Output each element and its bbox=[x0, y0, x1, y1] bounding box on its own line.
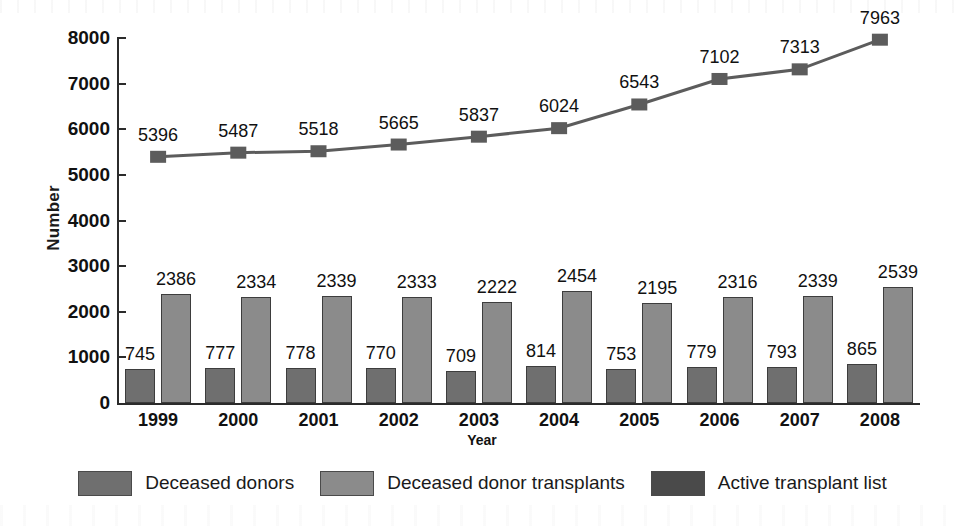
y-axis-tick-label: 4000 bbox=[40, 210, 110, 232]
x-axis-tick-label: 2000 bbox=[218, 410, 258, 431]
line-value-label: 7313 bbox=[780, 37, 820, 58]
bar-value-label: 2339 bbox=[316, 271, 356, 292]
x-axis-tick-label: 2008 bbox=[860, 410, 900, 431]
line-value-label: 5665 bbox=[379, 113, 419, 134]
legend-item[interactable]: Active transplant list bbox=[651, 471, 887, 496]
bar-deceased-donors bbox=[366, 368, 396, 403]
line-value-label: 5518 bbox=[298, 119, 338, 140]
bar-value-label: 779 bbox=[686, 342, 716, 363]
y-axis-tick-label: 3000 bbox=[40, 255, 110, 277]
bar-value-label: 793 bbox=[767, 342, 797, 363]
bar-value-label: 2539 bbox=[878, 262, 918, 283]
bar-deceased-donors bbox=[767, 367, 797, 403]
legend-item[interactable]: Deceased donors bbox=[78, 471, 294, 496]
bar-value-label: 778 bbox=[285, 343, 315, 364]
legend-swatch-icon bbox=[320, 471, 374, 496]
x-axis-tick-label: 2002 bbox=[379, 410, 419, 431]
bar-value-label: 2195 bbox=[637, 278, 677, 299]
legend-label: Deceased donors bbox=[145, 472, 294, 494]
bar-deceased-donor-transplants bbox=[642, 303, 672, 403]
y-axis-tick-label: 8000 bbox=[40, 27, 110, 49]
y-axis-tick-label: 2000 bbox=[40, 301, 110, 323]
bar-value-label: 2333 bbox=[397, 272, 437, 293]
bar-value-label: 2316 bbox=[717, 272, 757, 293]
bar-deceased-donors bbox=[205, 368, 235, 403]
bar-value-label: 2454 bbox=[557, 266, 597, 287]
x-axis-tick-label: 2006 bbox=[699, 410, 739, 431]
x-axis-title: Year bbox=[467, 432, 497, 448]
legend-label: Active transplant list bbox=[718, 472, 887, 494]
x-axis-tick-label: 2001 bbox=[298, 410, 338, 431]
legend-swatch-icon bbox=[651, 471, 705, 496]
bar-value-label: 2339 bbox=[798, 271, 838, 292]
x-axis-tick-label: 1999 bbox=[138, 410, 178, 431]
bar-value-label: 753 bbox=[606, 344, 636, 365]
line-value-label: 5396 bbox=[138, 125, 178, 146]
bar-deceased-donor-transplants bbox=[402, 297, 432, 403]
scan-artifact-top bbox=[0, 0, 965, 13]
y-axis-tick-label: 5000 bbox=[40, 164, 110, 186]
bar-deceased-donor-transplants bbox=[322, 296, 352, 403]
line-value-label: 7102 bbox=[699, 47, 739, 68]
line-value-label: 6024 bbox=[539, 96, 579, 117]
line-value-label: 6543 bbox=[619, 72, 659, 93]
bar-deceased-donors bbox=[125, 369, 155, 403]
x-axis-tick-label: 2003 bbox=[459, 410, 499, 431]
chart-legend: Deceased donorsDeceased donor transplant… bbox=[0, 462, 965, 504]
bar-value-label: 2222 bbox=[477, 277, 517, 298]
bar-value-label: 745 bbox=[125, 344, 155, 365]
bar-value-label: 2334 bbox=[236, 272, 276, 293]
scan-artifact-bottom bbox=[0, 505, 965, 526]
line-value-label: 7963 bbox=[860, 8, 900, 29]
bar-deceased-donors bbox=[526, 366, 556, 403]
bar-value-label: 814 bbox=[526, 341, 556, 362]
bar-deceased-donor-transplants bbox=[723, 297, 753, 403]
line-value-label: 5837 bbox=[459, 105, 499, 126]
bar-deceased-donor-transplants bbox=[241, 297, 271, 403]
bar-deceased-donors bbox=[606, 369, 636, 403]
plot-area bbox=[118, 38, 920, 403]
bar-deceased-donor-transplants bbox=[803, 296, 833, 403]
bar-deceased-donors bbox=[286, 368, 316, 403]
y-axis-tick-label: 1000 bbox=[40, 346, 110, 368]
x-axis-tick-label: 2004 bbox=[539, 410, 579, 431]
bar-value-label: 777 bbox=[205, 343, 235, 364]
line-value-label: 5487 bbox=[218, 121, 258, 142]
bar-deceased-donors bbox=[687, 367, 717, 403]
bar-value-label: 770 bbox=[366, 343, 396, 364]
bar-value-label: 2386 bbox=[156, 269, 196, 290]
legend-swatch-icon bbox=[78, 471, 132, 496]
y-axis-tick-label: 7000 bbox=[40, 73, 110, 95]
x-axis-line bbox=[118, 403, 920, 405]
bar-deceased-donor-transplants bbox=[161, 294, 191, 403]
legend-label: Deceased donor transplants bbox=[387, 472, 625, 494]
bar-value-label: 709 bbox=[446, 346, 476, 367]
x-axis-tick-label: 2007 bbox=[780, 410, 820, 431]
x-axis-tick-label: 2005 bbox=[619, 410, 659, 431]
y-axis-tick-label: 0 bbox=[40, 392, 110, 414]
bar-deceased-donors bbox=[446, 371, 476, 403]
bar-deceased-donor-transplants bbox=[482, 302, 512, 403]
bar-value-label: 865 bbox=[847, 339, 877, 360]
y-axis-tick-label: 6000 bbox=[40, 118, 110, 140]
bar-deceased-donors bbox=[847, 364, 877, 403]
legend-item[interactable]: Deceased donor transplants bbox=[320, 471, 625, 496]
bar-deceased-donor-transplants bbox=[883, 287, 913, 403]
bar-deceased-donor-transplants bbox=[562, 291, 592, 403]
chart-figure: Number 010002000300040005000600070008000… bbox=[0, 0, 965, 526]
